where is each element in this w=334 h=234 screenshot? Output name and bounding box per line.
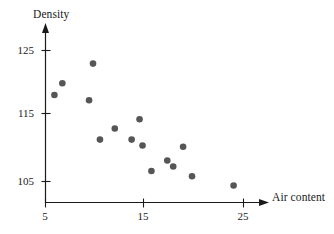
data-point <box>148 168 155 175</box>
data-point <box>189 173 196 180</box>
data-point-group <box>51 60 237 188</box>
y-axis-title: Density <box>33 8 69 20</box>
data-point <box>230 182 237 189</box>
data-point <box>170 163 177 170</box>
x-axis <box>45 199 269 206</box>
scatter-plot-figure: Density Air content 125 115 105 5 15 25 <box>0 0 334 234</box>
data-point <box>90 60 97 67</box>
x-tick-label-25: 25 <box>230 210 256 222</box>
y-tick-label-105: 105 <box>8 175 34 187</box>
data-point <box>59 80 66 87</box>
x-tick-label-5: 5 <box>32 210 58 222</box>
data-point <box>86 97 93 104</box>
x-axis-title: Air content <box>272 191 325 203</box>
data-point <box>164 157 171 164</box>
data-point <box>51 92 58 99</box>
y-tick-label-125: 125 <box>8 44 34 56</box>
y-tick-label-115: 115 <box>8 107 34 119</box>
x-tick-label-15: 15 <box>130 210 156 222</box>
data-point <box>180 143 187 150</box>
data-point <box>136 116 143 123</box>
data-point <box>139 142 146 149</box>
data-point <box>128 136 135 143</box>
data-point <box>112 125 119 132</box>
data-point <box>97 136 104 143</box>
